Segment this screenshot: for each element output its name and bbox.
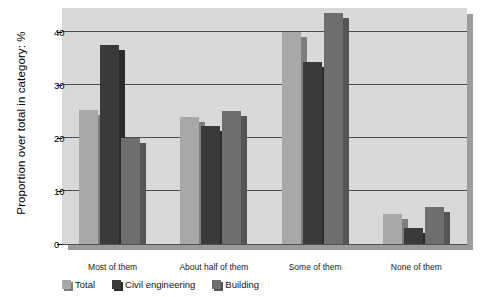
bar-shadow: [444, 212, 450, 244]
bar[interactable]: [383, 214, 402, 244]
y-axis-title: Proportion over total in category: %: [15, 0, 27, 248]
plot-area-shadow-right: [467, 14, 473, 245]
y-tick-mark-30: [57, 85, 62, 86]
bar[interactable]: [303, 62, 322, 244]
bar-group: [282, 8, 349, 244]
bar-shadow: [343, 18, 349, 244]
bar-shadow: [241, 116, 247, 244]
bar-shadow: [140, 143, 146, 244]
bar-group: [383, 8, 450, 244]
y-tick-mark-10: [57, 191, 62, 192]
legend-item[interactable]: Building: [212, 279, 259, 290]
bar[interactable]: [100, 45, 119, 244]
legend-swatch-icon: [62, 280, 71, 289]
bar[interactable]: [121, 138, 140, 244]
legend: TotalCivil engineeringBuilding: [62, 279, 259, 290]
bar[interactable]: [404, 228, 423, 244]
bar[interactable]: [425, 207, 444, 244]
legend-swatch-icon: [112, 280, 121, 289]
x-category-label: Most of them: [88, 262, 137, 272]
bar[interactable]: [222, 111, 241, 244]
legend-swatch-icon: [212, 280, 221, 289]
bar-group: [180, 8, 247, 244]
x-category-label: None of them: [391, 262, 442, 272]
bar[interactable]: [79, 110, 98, 244]
legend-item[interactable]: Total: [62, 279, 95, 290]
bar-chart: Proportion over total in category: % 010…: [0, 0, 481, 297]
legend-item[interactable]: Civil engineering: [112, 279, 195, 290]
y-tick-mark-20: [57, 138, 62, 139]
bar[interactable]: [180, 117, 199, 244]
legend-label: Building: [225, 279, 259, 290]
legend-label: Total: [75, 279, 95, 290]
bar-group: [79, 8, 146, 244]
legend-label: Civil engineering: [125, 279, 195, 290]
bar[interactable]: [282, 32, 301, 244]
x-axis-line: [62, 244, 467, 245]
plot-area-shadow-bottom: [68, 245, 473, 250]
bar[interactable]: [324, 13, 343, 244]
plot-area: [62, 8, 467, 245]
x-category-label: About half of them: [179, 262, 248, 272]
y-tick-mark-40: [57, 32, 62, 33]
x-category-label: Some of them: [289, 262, 342, 272]
y-tick-mark-0: [57, 244, 62, 245]
bar[interactable]: [201, 126, 220, 244]
